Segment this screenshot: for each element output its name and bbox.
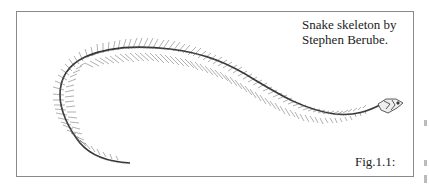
caption-line-1: Snake skeleton by — [302, 17, 397, 32]
edge-mark — [424, 160, 427, 166]
figure-label: Fig.1.1: — [355, 154, 395, 170]
edge-mark — [424, 120, 427, 126]
caption-line-2: Stephen Berube. — [302, 32, 397, 47]
edge-mark — [424, 175, 427, 183]
figure-caption: Snake skeleton by Stephen Berube. — [302, 17, 397, 47]
